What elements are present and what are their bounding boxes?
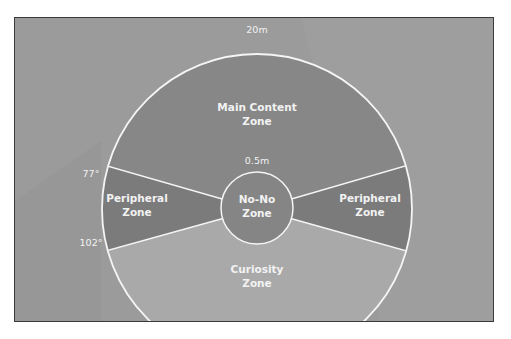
main-content-zone-label: Main Content Zone (217, 100, 296, 128)
peripheral-zone-left-label: Peripheral Zone (106, 191, 168, 219)
peripheral-zone-right-label: Peripheral Zone (339, 191, 401, 219)
curiosity-zone-label: Curiosity Zone (231, 262, 284, 290)
inner-radius-label: 0.5m (245, 155, 269, 166)
no-no-zone-label: No-No Zone (239, 192, 275, 220)
angle-top-label: 77° (83, 168, 100, 179)
angle-bottom-label: 102° (80, 237, 103, 248)
outer-radius-label: 20m (246, 24, 267, 35)
diagram-frame: 20m 0.5m 77° 102° Main Content Zone Peri… (14, 17, 494, 322)
